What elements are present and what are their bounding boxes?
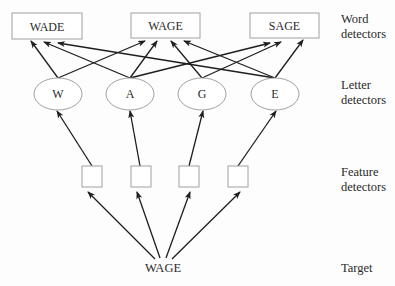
arrow-w-to-wage bbox=[58, 41, 145, 78]
arrow-feature-2-to-g bbox=[189, 111, 203, 166]
level-label-letter: Letter detectors bbox=[341, 78, 386, 108]
arrow-target-to-feature-3 bbox=[172, 192, 240, 259]
arrow-feature-0-to-w bbox=[57, 111, 92, 166]
arrow-feature-3-to-e bbox=[238, 111, 276, 166]
feature-box-2 bbox=[179, 166, 199, 187]
diagram-canvas: WADE WAGE SAGE W A G bbox=[0, 0, 395, 286]
arrow-target-to-feature-2 bbox=[166, 192, 190, 258]
letter-label: A bbox=[126, 87, 135, 101]
feature-box-3 bbox=[228, 166, 248, 187]
level-label-line1: Word bbox=[341, 12, 386, 27]
level-label-line1: Feature bbox=[341, 165, 386, 180]
level-label-line2: detectors bbox=[341, 180, 386, 195]
letter-node-0: W bbox=[34, 78, 82, 110]
arrow-feature-1-to-a bbox=[130, 111, 140, 166]
word-label: WADE bbox=[30, 20, 65, 34]
level-label-line1: Target bbox=[341, 261, 373, 276]
arrow-target-to-feature-1 bbox=[137, 192, 160, 258]
word-label: WAGE bbox=[148, 19, 183, 33]
diagram-svg: WADE WAGE SAGE W A G bbox=[0, 0, 395, 286]
level-label-word: Word detectors bbox=[341, 12, 386, 42]
letter-node-3: E bbox=[251, 78, 299, 110]
letter-node-1: A bbox=[106, 78, 154, 110]
word-node-1: WAGE bbox=[131, 13, 200, 38]
target-word: WAGE bbox=[145, 261, 181, 275]
letter-label: W bbox=[52, 87, 64, 101]
letter-label: E bbox=[271, 87, 278, 101]
letter-label: G bbox=[198, 87, 207, 101]
word-node-2: SAGE bbox=[250, 13, 319, 38]
level-label-line1: Letter bbox=[341, 78, 386, 93]
word-node-0: WADE bbox=[12, 13, 82, 39]
feature-box-1 bbox=[131, 166, 151, 187]
arrow-target-to-feature-0 bbox=[88, 192, 155, 259]
word-label: SAGE bbox=[269, 19, 300, 33]
arrow-e-to-wade bbox=[58, 43, 275, 78]
arrow-e-to-sage bbox=[275, 40, 303, 78]
level-label-feature: Feature detectors bbox=[341, 165, 386, 195]
letter-node-2: G bbox=[178, 78, 226, 110]
level-label-target: Target bbox=[341, 261, 373, 276]
level-label-line2: detectors bbox=[341, 93, 386, 108]
nodes-layer: WADE WAGE SAGE W A G bbox=[12, 13, 319, 275]
feature-box-0 bbox=[82, 166, 102, 187]
edges-layer bbox=[31, 40, 303, 259]
level-label-line2: detectors bbox=[341, 27, 386, 42]
